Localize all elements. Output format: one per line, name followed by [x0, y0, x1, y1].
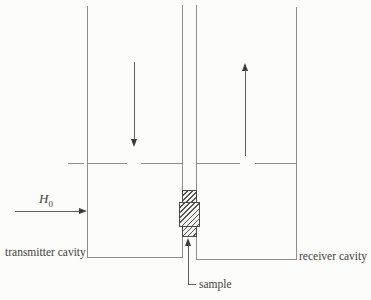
coupling-plane-dash: [255, 163, 296, 164]
coupling-plane-dash: [197, 163, 240, 164]
sample-collar: [179, 202, 200, 227]
receiver-cavity-bottom-wall: [196, 259, 297, 260]
coupling-plane-dash: [68, 163, 84, 164]
right-arrowhead-icon: [79, 208, 87, 214]
down-arrowhead-icon: [131, 139, 137, 147]
transmitter-cavity-left-wall: [87, 6, 88, 258]
receiver-cavity-right-wall: [296, 7, 297, 260]
coupling-plane-dash: [141, 163, 182, 164]
diagram-canvas: H0 sample transmitter cavity receiver ca…: [0, 0, 371, 300]
transmitter-down-arrow-stem: [134, 62, 135, 140]
h0-field-arrow-stem: [15, 211, 79, 212]
transmitter-cavity-bottom-wall: [87, 257, 183, 258]
receiver-cavity-label: receiver cavity: [299, 250, 367, 263]
center-tube-right-wall-lower: [196, 236, 197, 260]
h0-field-label: H0: [39, 192, 53, 209]
center-tube-left-wall-upper: [182, 5, 183, 190]
coupling-plane-dash: [88, 163, 127, 164]
center-tube-left-wall-lower: [182, 236, 183, 258]
sample-leader-line: [188, 245, 189, 285]
h0-base-text: H: [39, 191, 48, 206]
transmitter-cavity-label: transmitter cavity: [5, 246, 86, 259]
sample-leader-corner: [188, 284, 196, 285]
sample-label: sample: [199, 278, 232, 291]
receiver-up-arrow-stem: [245, 70, 246, 156]
h0-subscript-text: 0: [48, 199, 53, 209]
